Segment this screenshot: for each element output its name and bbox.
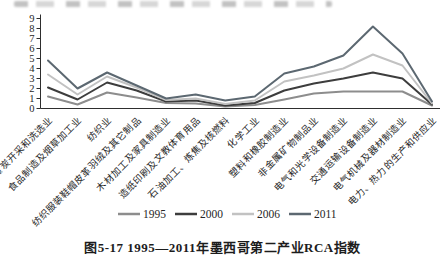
- y-tick-label: 5: [29, 53, 34, 64]
- y-tick-label: 9: [29, 13, 34, 24]
- y-tick-label: 6: [29, 43, 34, 54]
- x-category-label: 纺织服装鞋帽皮革羽绒及其它制品: [29, 115, 143, 229]
- x-category-label: 纺织业: [84, 115, 113, 144]
- legend-item-1995: 1995: [118, 208, 166, 220]
- y-axis-ticks: 0123456789: [29, 13, 40, 114]
- legend-label: 1995: [143, 208, 166, 220]
- y-tick-label: 8: [29, 23, 34, 34]
- y-tick-label: 3: [29, 73, 34, 84]
- y-tick-label: 7: [29, 33, 34, 44]
- legend: 1995200020062011: [118, 208, 337, 220]
- legend-item-2006: 2006: [232, 208, 280, 220]
- legend-label: 2000: [200, 208, 223, 220]
- legend-label: 2006: [257, 208, 280, 220]
- y-tick-label: 4: [29, 63, 35, 74]
- rca-line-chart: 0123456789煤炭开采和洗选业食品制造及烟草加工业纺织业纺织服装鞋帽皮革羽…: [0, 0, 445, 236]
- legend-label: 2011: [314, 208, 337, 220]
- legend-item-2000: 2000: [175, 208, 223, 220]
- series-line-2011: [48, 27, 432, 102]
- figure-caption: 图5-17 1995—2011年墨西哥第二产业RCA指数: [0, 237, 445, 256]
- series-line-2006: [48, 55, 432, 105]
- y-tick-label: 0: [29, 103, 34, 114]
- series-lines: [48, 27, 432, 107]
- legend-item-2011: 2011: [289, 208, 337, 220]
- y-tick-label: 1: [29, 93, 34, 104]
- y-tick-label: 2: [29, 83, 34, 94]
